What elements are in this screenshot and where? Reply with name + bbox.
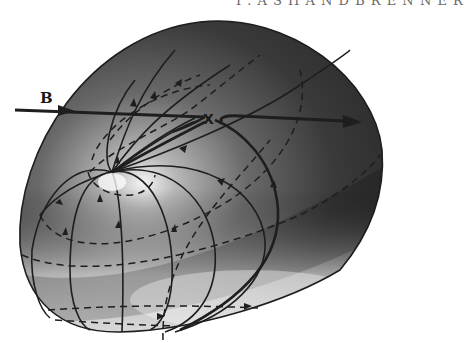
x-point-label: X — [203, 111, 214, 127]
b-field-label: B — [40, 89, 53, 107]
cusp-highlight — [98, 173, 126, 191]
